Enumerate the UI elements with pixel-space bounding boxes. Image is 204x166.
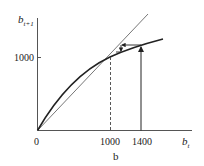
phase-diagram: bt+1 1000 0 1000 1400 bt b [0,0,204,166]
caption: b [113,150,119,162]
x-axis-label: bt [182,135,191,150]
x-tick-label-1000: 1000 [100,136,120,147]
forty-five-degree-line [38,14,149,131]
y-tick-label-1000: 1000 [14,52,34,63]
x-tick-label-0: 0 [34,136,39,147]
x-tick-label-1400: 1400 [132,136,152,147]
y-axis-label: bt+1 [18,13,34,28]
transition-curve [38,39,164,131]
